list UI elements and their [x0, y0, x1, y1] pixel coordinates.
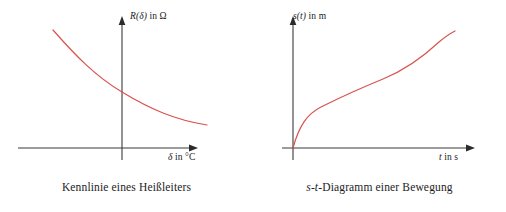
- x-axis-connector-right: in: [442, 152, 455, 162]
- y-axis-connector-right: in: [306, 11, 319, 21]
- y-axis: [119, 16, 126, 160]
- y-axis-connector-left: in: [147, 11, 160, 21]
- figure-caption-right-italic: s-t: [306, 181, 318, 193]
- x-axis-unit-right: s: [454, 152, 458, 162]
- y-axis-variable-right: s(t): [293, 11, 306, 21]
- figure-caption-left: Kennlinie eines Heißleiters: [0, 181, 253, 193]
- figure-caption-right: s-t-Diagramm einer Bewegung: [253, 181, 506, 193]
- x-axis-unit-left: °C: [185, 152, 195, 162]
- distance-time-curve: [293, 31, 455, 148]
- figure-distance-time-diagram: s(t) in m t in s s-t-Diagramm einer Bewe…: [253, 0, 506, 212]
- x-axis: [18, 145, 198, 152]
- x-axis-label-right: t in s: [439, 152, 458, 162]
- y-axis-variable-left: R(δ): [130, 11, 147, 21]
- y-axis-label-left: R(δ) in Ω: [130, 11, 167, 21]
- figure-caption-right-rest: -Diagramm einer Bewegung: [318, 181, 453, 193]
- x-axis-label-left: δ in °C: [168, 152, 195, 162]
- x-axis-connector-left: in: [173, 152, 186, 162]
- y-axis: [290, 16, 297, 160]
- figure-pair-page: R(δ) in Ω δ in °C Kennlinie eines Heißle…: [0, 0, 506, 212]
- figure-thermistor-characteristic: R(δ) in Ω δ in °C Kennlinie eines Heißle…: [0, 0, 253, 212]
- y-axis-unit-right: m: [319, 11, 327, 21]
- y-axis-label-right: s(t) in m: [293, 11, 326, 21]
- y-axis-unit-left: Ω: [160, 11, 167, 21]
- x-axis: [282, 145, 475, 152]
- resistance-curve: [53, 30, 207, 125]
